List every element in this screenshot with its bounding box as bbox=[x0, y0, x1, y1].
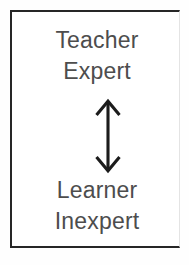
bidirectional-arrow-icon bbox=[86, 98, 130, 174]
top-label-group: Teacher Expert bbox=[12, 25, 182, 87]
bottom-label-line-1: Learner bbox=[12, 175, 182, 206]
top-label-line-2: Expert bbox=[12, 56, 182, 87]
diagram-root: Teacher Expert Learner Inexpert bbox=[0, 0, 189, 265]
bottom-label-group: Learner Inexpert bbox=[12, 175, 182, 237]
diagram-frame: Teacher Expert Learner Inexpert bbox=[10, 10, 180, 248]
bottom-label-line-2: Inexpert bbox=[12, 206, 182, 237]
top-label-line-1: Teacher bbox=[12, 25, 182, 56]
